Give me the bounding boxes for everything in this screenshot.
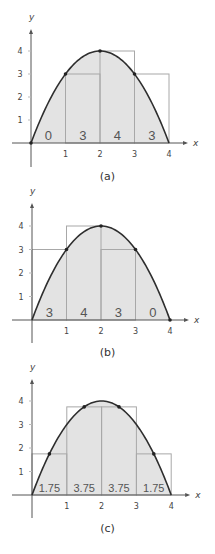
x-tick-label: 1: [64, 502, 69, 511]
caption-c: (c): [0, 522, 215, 535]
rectangle-area-label: 4: [80, 305, 87, 320]
sample-point: [82, 405, 86, 409]
sample-point: [117, 405, 121, 409]
rectangle-area-label: 4: [114, 128, 121, 143]
x-tick-label: 4: [167, 327, 172, 336]
y-axis-label: y: [28, 12, 35, 22]
y-tick-label: 2: [18, 269, 23, 278]
sample-point: [65, 248, 69, 252]
rectangle-area-label: 3.75: [108, 482, 129, 494]
y-axis-arrow-icon: [30, 379, 34, 384]
x-tick-label: 3: [133, 327, 138, 336]
rectangle-area-label: 3.75: [73, 482, 94, 494]
sample-point: [168, 318, 172, 322]
rectangle-area-label: 3: [148, 128, 155, 143]
sample-point: [152, 452, 156, 456]
sample-point: [134, 248, 138, 252]
panel-c: xy123412341.753.753.751.75 (c): [0, 350, 215, 550]
riemann-plot-midpoint: xy123412341.753.753.751.75: [0, 350, 215, 525]
rectangle-area-label: 0: [45, 128, 52, 143]
x-axis-arrow-icon: [184, 318, 189, 322]
y-axis-arrow-icon: [30, 203, 34, 208]
x-axis-label: x: [194, 490, 201, 500]
x-tick-label: 3: [134, 502, 139, 511]
panel-a: xy123412340343 (a): [0, 0, 215, 185]
y-tick-label: 4: [18, 222, 23, 231]
x-tick-label: 4: [169, 502, 174, 511]
sample-point: [133, 72, 137, 76]
x-tick-label: 2: [98, 327, 103, 336]
y-tick-label: 4: [17, 47, 22, 56]
sample-point: [98, 49, 102, 53]
x-tick-label: 4: [166, 150, 171, 159]
x-tick-label: 1: [64, 327, 69, 336]
y-tick-label: 1: [18, 293, 23, 302]
x-tick-label: 3: [132, 150, 137, 159]
rectangle-area-label: 3: [79, 128, 86, 143]
x-axis-label: x: [192, 138, 199, 148]
rectangle-area-label: 1.75: [39, 482, 60, 494]
y-tick-label: 3: [17, 70, 22, 79]
rectangle-area-label: 1.75: [143, 482, 164, 494]
panel-b: xy123412343430 (b): [0, 174, 215, 359]
x-axis-arrow-icon: [183, 141, 188, 145]
sample-point: [48, 452, 52, 456]
riemann-plot-right-endpoint: xy123412343430: [0, 174, 215, 344]
y-tick-label: 1: [17, 116, 22, 125]
x-tick-label: 2: [99, 502, 104, 511]
y-tick-label: 4: [18, 397, 23, 406]
riemann-plot-left-endpoint: xy123412340343: [0, 0, 215, 170]
sample-point: [64, 72, 68, 76]
x-tick-label: 2: [97, 150, 102, 159]
y-tick-label: 1: [18, 468, 23, 477]
x-tick-label: 1: [63, 150, 68, 159]
y-axis-arrow-icon: [29, 29, 33, 34]
x-axis-label: x: [193, 315, 200, 325]
x-axis-arrow-icon: [185, 493, 190, 497]
y-tick-label: 2: [18, 444, 23, 453]
rectangle-area-label: 0: [149, 305, 156, 320]
rectangle-area-label: 3: [115, 305, 122, 320]
y-tick-label: 3: [18, 421, 23, 430]
sample-point: [29, 141, 33, 145]
sample-point: [99, 224, 103, 228]
y-axis-label: y: [29, 362, 36, 372]
y-axis-label: y: [29, 186, 36, 196]
rectangle-area-label: 3: [46, 305, 53, 320]
y-tick-label: 3: [18, 246, 23, 255]
y-tick-label: 2: [17, 93, 22, 102]
